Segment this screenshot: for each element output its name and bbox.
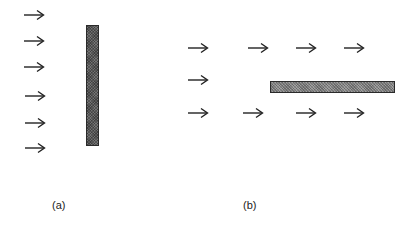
right-arrow-icon xyxy=(343,107,365,119)
right-arrow-icon xyxy=(24,142,46,154)
right-arrow-icon xyxy=(343,42,365,54)
right-arrow-icon xyxy=(24,117,46,129)
vertical-plate xyxy=(86,25,99,146)
right-arrow-icon xyxy=(24,90,46,102)
right-arrow-icon xyxy=(242,107,264,119)
panel-label-a: (a) xyxy=(52,199,65,211)
right-arrow-icon xyxy=(23,61,45,73)
panel-label-b: (b) xyxy=(243,199,256,211)
right-arrow-icon xyxy=(187,42,209,54)
right-arrow-icon xyxy=(187,107,209,119)
horizontal-plate xyxy=(270,81,395,93)
right-arrow-icon xyxy=(295,107,317,119)
right-arrow-icon xyxy=(23,9,45,21)
right-arrow-icon xyxy=(187,74,209,86)
right-arrow-icon xyxy=(23,35,45,47)
right-arrow-icon xyxy=(247,42,269,54)
right-arrow-icon xyxy=(295,42,317,54)
